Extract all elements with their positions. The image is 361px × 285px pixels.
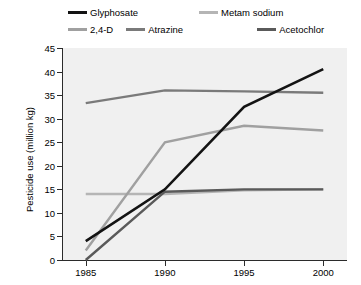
series-line-glyphosate — [86, 69, 324, 241]
chart-series-lines — [0, 0, 361, 285]
series-line-atrazine — [86, 90, 324, 103]
pesticide-use-line-chart: Glyphosate Metam sodium 2,4-D Atrazine A… — [0, 0, 361, 285]
